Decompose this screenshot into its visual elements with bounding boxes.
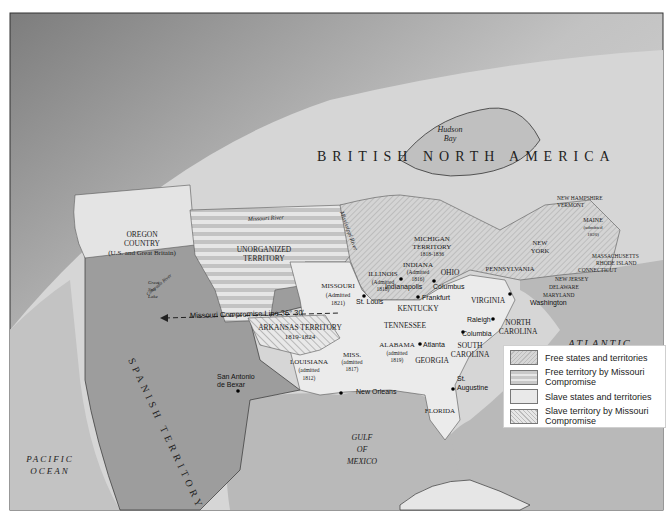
svg-text:1812): 1812) [303, 375, 316, 382]
city-dot-icon [451, 387, 455, 391]
city-dot-icon [339, 391, 343, 395]
svg-text:PENNSYLVANIA: PENNSYLVANIA [486, 265, 535, 272]
svg-text:VIRGINIA: VIRGINIA [471, 296, 506, 305]
svg-text:Washington: Washington [530, 299, 567, 307]
svg-text:OF: OF [357, 445, 368, 454]
svg-text:Bay: Bay [444, 134, 457, 143]
svg-text:UNORGANIZED: UNORGANIZED [237, 245, 292, 254]
svg-text:NEW JERSEY: NEW JERSEY [555, 276, 588, 282]
svg-text:GULF: GULF [352, 433, 373, 442]
svg-text:1819): 1819) [391, 357, 404, 364]
svg-text:(Admitted: (Admitted [407, 269, 430, 276]
svg-text:TENNESSEE: TENNESSEE [384, 321, 427, 330]
svg-text:Columbus: Columbus [433, 283, 465, 290]
svg-text:KENTUCKY: KENTUCKY [397, 304, 439, 313]
city-dot-icon [399, 277, 403, 281]
slave-hatch-swatch-icon [510, 409, 538, 424]
svg-text:FLORIDA: FLORIDA [425, 407, 455, 415]
svg-text:(admitted: (admitted [298, 367, 319, 374]
svg-text:Raleigh: Raleigh [467, 316, 491, 324]
city-dot-icon [416, 295, 420, 299]
city-dot-icon [491, 317, 495, 321]
city-dot-icon [508, 292, 512, 296]
svg-text:CONNECTICUT: CONNECTICUT [578, 267, 617, 273]
svg-text:New Orleans: New Orleans [356, 388, 397, 395]
svg-text:TERRITORY: TERRITORY [243, 254, 285, 263]
svg-text:1818-1836: 1818-1836 [420, 251, 444, 257]
label-british-north-america: BRITISH NORTH AMERICA [317, 149, 616, 164]
legend-item-slave-states: Slave states and territories [510, 389, 661, 404]
svg-text:1820): 1820) [587, 232, 599, 237]
missouri-compromise-map: BRITISH NORTH AMERICA Hudson Bay OREGON … [0, 0, 672, 524]
svg-text:MISSOURI: MISSOURI [321, 282, 355, 290]
svg-text:GEORGIA: GEORGIA [415, 356, 449, 365]
svg-text:OHIO: OHIO [441, 268, 460, 277]
svg-text:SOUTH: SOUTH [457, 341, 483, 350]
slave-plain-swatch-icon [510, 389, 538, 404]
svg-text:COUNTRY: COUNTRY [124, 239, 160, 248]
legend-item-slave-mc: Slave territory by Missouri Compromise [510, 406, 661, 426]
svg-text:LOUISIANA: LOUISIANA [290, 358, 328, 366]
svg-text:ILLINOIS: ILLINOIS [368, 270, 398, 278]
svg-text:MISS.: MISS. [343, 351, 361, 359]
svg-text:(Admitted: (Admitted [326, 292, 351, 299]
legend-item-free-states: Free states and territories [510, 350, 661, 365]
svg-text:MASSACHUSETTS: MASSACHUSETTS [592, 253, 639, 259]
svg-text:MARYLAND: MARYLAND [543, 292, 575, 298]
city-dot-icon [236, 389, 240, 393]
svg-text:Frankfurt: Frankfurt [422, 294, 450, 301]
svg-text:ARKANSAS TERRITORY: ARKANSAS TERRITORY [258, 323, 342, 332]
svg-text:ALABAMA: ALABAMA [379, 341, 414, 349]
svg-text:DELAWARE: DELAWARE [549, 284, 579, 290]
svg-text:Columbia: Columbia [462, 330, 492, 337]
svg-text:VERMONT: VERMONT [557, 202, 585, 208]
svg-text:Salt: Salt [148, 287, 156, 292]
svg-text:PACIFIC: PACIFIC [25, 454, 73, 464]
svg-text:Lake: Lake [147, 294, 159, 299]
legend-item-free-mc: Free territory by Missouri Compromise [510, 367, 661, 387]
svg-text:1817): 1817) [346, 366, 359, 373]
svg-text:1821): 1821) [331, 300, 345, 307]
svg-text:(admitted: (admitted [341, 359, 362, 366]
svg-text:1816): 1816) [412, 276, 425, 283]
svg-text:RHODE ISLAND: RHODE ISLAND [596, 260, 637, 266]
svg-text:(admitted: (admitted [583, 225, 603, 230]
svg-text:St. Louis: St. Louis [356, 298, 384, 305]
svg-text:de Bexar: de Bexar [217, 381, 246, 388]
svg-text:YORK: YORK [531, 247, 550, 254]
free-hatch-swatch-icon [510, 350, 538, 365]
svg-text:San Antonio: San Antonio [217, 373, 255, 380]
svg-text:NEW HAMPSHIRE: NEW HAMPSHIRE [557, 195, 603, 201]
svg-text:Hudson: Hudson [437, 125, 463, 134]
svg-text:TERRITORY: TERRITORY [413, 243, 452, 251]
map-legend: Free states and territories Free territo… [503, 345, 666, 428]
svg-text:MEXICO: MEXICO [346, 457, 377, 466]
svg-text:Indianapolis: Indianapolis [385, 283, 423, 291]
svg-text:MAINE: MAINE [583, 217, 603, 223]
svg-text:OCEAN: OCEAN [30, 466, 70, 476]
svg-text:NEW: NEW [533, 239, 549, 246]
svg-text:1819-1824: 1819-1824 [285, 333, 316, 341]
svg-text:(U.S. and Great Britain): (U.S. and Great Britain) [108, 249, 176, 257]
svg-text:INDIANA: INDIANA [403, 261, 433, 269]
svg-text:CAROLINA: CAROLINA [451, 350, 490, 359]
svg-text:St.: St. [457, 375, 466, 382]
svg-text:CAROLINA: CAROLINA [499, 327, 538, 336]
svg-text:Augustine: Augustine [457, 384, 488, 392]
svg-text:(admitted: (admitted [386, 350, 407, 357]
svg-text:MICHIGAN: MICHIGAN [414, 235, 450, 243]
city-dot-icon [418, 342, 422, 346]
free-stripe-swatch-icon [510, 370, 538, 385]
svg-text:NORTH: NORTH [505, 318, 531, 327]
svg-text:Atlanta: Atlanta [423, 341, 445, 348]
svg-text:OREGON: OREGON [126, 230, 158, 239]
svg-text:Great: Great [148, 280, 160, 285]
